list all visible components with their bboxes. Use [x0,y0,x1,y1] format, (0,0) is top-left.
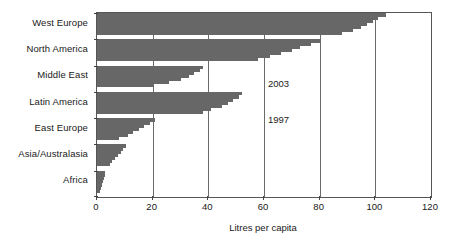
bar-group [97,39,431,60]
x-axis-tick-label: 60 [243,201,283,212]
x-axis-tick [319,196,320,200]
y-axis-tick [94,92,98,93]
bar-segment [97,163,110,167]
bar-segment [97,84,153,88]
x-axis-tick [430,196,431,200]
y-axis-tick [94,171,98,172]
x-axis-tick-label: 40 [187,201,227,212]
bar-group [97,66,431,87]
x-axis-title: Litres per capita [96,222,430,233]
y-axis-tick [94,13,98,14]
category-label: Latin America [0,97,88,107]
annotation-year-1997: 1997 [268,114,289,125]
x-axis: 020406080100120 [96,196,430,220]
y-axis-tick [94,118,98,119]
category-axis-labels: West EuropeNorth AmericaMiddle EastLatin… [0,12,88,196]
x-axis-tick-label: 100 [354,201,394,212]
bar-segment [97,136,119,140]
x-axis-tick-label: 120 [410,201,450,212]
x-axis-tick [374,196,375,200]
y-axis-tick [94,144,98,145]
category-label: East Europe [0,123,88,133]
bar-chart: West EuropeNorth AmericaMiddle EastLatin… [0,0,452,246]
category-label: Middle East [0,70,88,80]
x-axis-tick [96,196,97,200]
bar-group [97,92,431,113]
bar-group [97,13,431,34]
bar-segment [97,31,342,35]
bar-group [97,144,431,165]
category-label: West Europe [0,18,88,28]
x-axis-tick-label: 0 [76,201,116,212]
bar-segment [97,189,100,193]
category-label: Asia/Australasia [0,149,88,159]
x-axis-tick-label: 20 [132,201,172,212]
y-axis-tick [94,39,98,40]
plot-area: 2003 1997 [96,12,432,198]
category-label: North America [0,44,88,54]
x-axis-tick [207,196,208,200]
bar-group [97,171,431,192]
y-axis-tick [94,66,98,67]
bar-group [97,118,431,139]
x-axis-tick [263,196,264,200]
category-label: Africa [0,175,88,185]
x-axis-tick-label: 80 [299,201,339,212]
x-axis-tick [152,196,153,200]
bar-segment [97,110,203,114]
bar-bands [97,13,431,197]
bar-segment [97,58,258,62]
annotation-year-2003: 2003 [268,78,289,89]
